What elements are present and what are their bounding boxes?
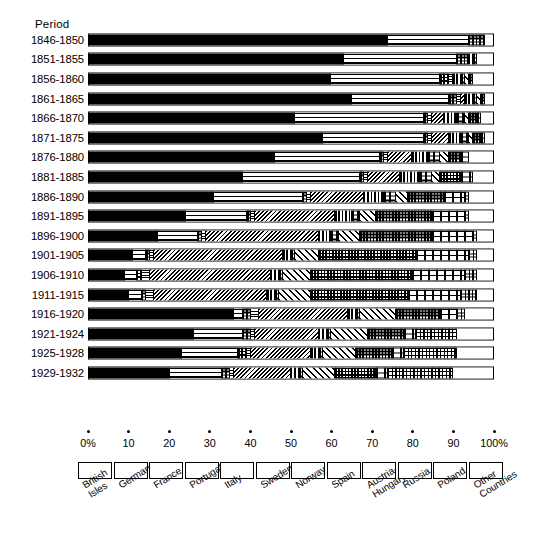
stacked-bar [88, 112, 494, 125]
bar-segment [291, 367, 299, 378]
bar-segment [469, 152, 493, 163]
bar-segment [331, 328, 367, 339]
bar-segment [154, 250, 283, 261]
legend-item: BritishIsles [78, 462, 112, 479]
bar-segment [125, 269, 137, 280]
bar-segment [388, 34, 469, 45]
row-period-label: 1901-1905 [18, 249, 84, 261]
bar-segment [348, 309, 356, 320]
bar-segment [440, 152, 448, 163]
chart-row: 1861-1865 [0, 89, 555, 109]
axis-tick-mark [493, 430, 496, 433]
axis-tick-label: 10 [123, 437, 135, 449]
bar-segment [408, 191, 444, 202]
bar-segment [461, 132, 469, 143]
bar-segment [255, 211, 336, 222]
stacked-bar [88, 53, 494, 66]
row-period-label: 1851-1855 [18, 53, 84, 65]
bar-segment [457, 348, 493, 359]
bar-segment [251, 309, 259, 320]
bar-segment [469, 113, 477, 124]
bar-segment [457, 54, 469, 65]
bar-segment [89, 54, 344, 65]
bar-segment [473, 73, 493, 84]
stacked-bar [88, 308, 494, 321]
stacked-bar-chart: Period 1846-18501851-18551856-18601861-1… [0, 0, 555, 538]
bar-segment [186, 211, 247, 222]
bar-segment [428, 152, 440, 163]
bar-segment [449, 93, 457, 104]
chart-row: 1866-1870 [0, 108, 555, 128]
chart-row: 1925-1928 [0, 344, 555, 364]
bar-segment [142, 269, 150, 280]
chart-row: 1891-1895 [0, 206, 555, 226]
legend-item: Portugal [185, 462, 219, 479]
bar-segment [251, 348, 312, 359]
bar-segment [339, 230, 359, 241]
legend-item: Germany [114, 462, 148, 479]
bar-segment [485, 132, 493, 143]
bar-segment [89, 250, 133, 261]
row-period-label: 1896-1900 [18, 230, 84, 242]
chart-row: 1929-1932 [0, 363, 555, 383]
chart-row: 1896-1900 [0, 226, 555, 246]
bar-segment [335, 367, 375, 378]
row-period-label: 1925-1928 [18, 347, 84, 359]
bar-segment [485, 93, 493, 104]
bar-segment [432, 113, 444, 124]
bar-segment [89, 171, 243, 182]
bar-segment [432, 132, 448, 143]
bar-segment [311, 191, 364, 202]
axis-tick-mark [127, 430, 130, 433]
bar-segment [404, 348, 457, 359]
bar-segment [477, 54, 493, 65]
bar-segment [360, 309, 396, 320]
bar-segment [214, 191, 303, 202]
stacked-bar [88, 170, 494, 183]
bar-segment [311, 289, 408, 300]
bar-segment [469, 34, 485, 45]
axis-tick-label: 40 [244, 437, 256, 449]
axis-tick-label: 60 [326, 437, 338, 449]
axis-tick-label: 0% [80, 437, 96, 449]
axis-tick-mark [290, 430, 293, 433]
chart-row: 1911-1915 [0, 285, 555, 305]
bar-segment [154, 289, 267, 300]
row-period-label: 1921-1924 [18, 328, 84, 340]
bar-segment [477, 289, 493, 300]
bar-segment [323, 348, 355, 359]
row-period-label: 1876-1880 [18, 151, 84, 163]
stacked-bar [88, 151, 494, 164]
axis-tick-label: 100% [480, 437, 508, 449]
bar-segment [89, 230, 158, 241]
axis-tick-mark [249, 430, 252, 433]
legend-item: Spain [327, 462, 361, 479]
chart-row: 1876-1880 [0, 148, 555, 168]
legend-item: France [149, 462, 183, 479]
bar-segment [243, 309, 251, 320]
bar-segment [319, 250, 416, 261]
bar-segment [461, 171, 473, 182]
bar-segment [461, 152, 469, 163]
bar-segment [469, 211, 493, 222]
bar-segment [384, 191, 396, 202]
chart-row: 1901-1905 [0, 246, 555, 266]
stacked-bar [88, 347, 494, 360]
stacked-bar [88, 190, 494, 203]
bar-segment [356, 348, 392, 359]
axis-tick-mark [411, 430, 414, 433]
row-period-label: 1929-1932 [18, 367, 84, 379]
bar-segment [352, 211, 360, 222]
bar-segment [396, 309, 440, 320]
bar-segment [89, 132, 323, 143]
bar-segment [158, 230, 198, 241]
bar-segment [295, 113, 424, 124]
bar-segment [89, 93, 352, 104]
bar-segment [440, 73, 448, 84]
bar-segment [453, 367, 493, 378]
axis-tick-mark [168, 430, 171, 433]
bar-segment [238, 348, 246, 359]
chart-row: 1886-1890 [0, 187, 555, 207]
bar-segment [352, 93, 449, 104]
bar-segment [457, 113, 465, 124]
